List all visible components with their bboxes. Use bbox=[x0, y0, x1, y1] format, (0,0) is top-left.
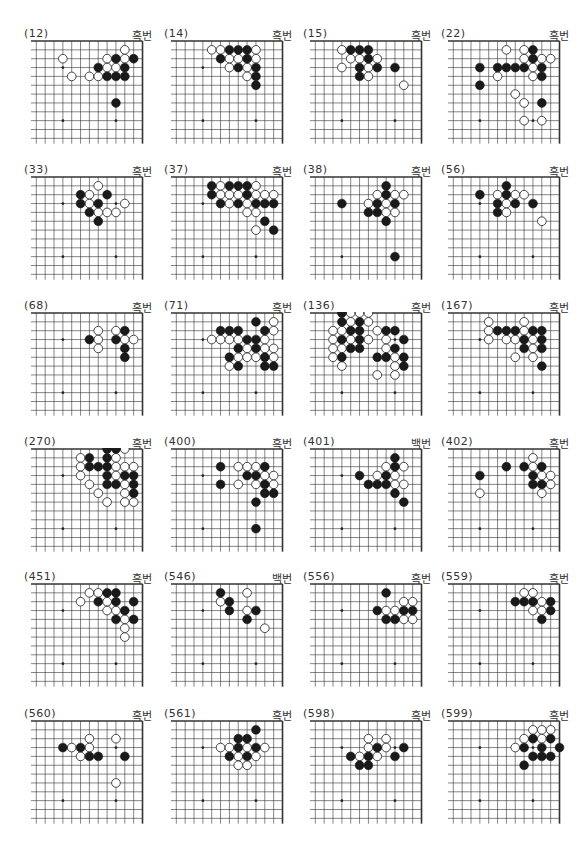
black-stone bbox=[399, 743, 408, 752]
white-stone bbox=[111, 454, 120, 463]
white-stone bbox=[269, 190, 278, 199]
white-stone bbox=[260, 471, 269, 480]
white-stone bbox=[546, 726, 555, 735]
white-stone bbox=[225, 199, 234, 208]
star-point bbox=[61, 609, 64, 612]
white-stone bbox=[269, 318, 278, 327]
black-stone bbox=[519, 462, 528, 471]
white-stone bbox=[102, 606, 111, 615]
white-stone bbox=[519, 589, 528, 598]
white-stone bbox=[242, 761, 251, 770]
white-stone bbox=[390, 371, 399, 380]
white-stone bbox=[381, 335, 390, 344]
go-board bbox=[165, 176, 289, 286]
black-stone bbox=[120, 752, 129, 761]
black-stone bbox=[242, 45, 251, 54]
white-stone bbox=[234, 54, 243, 63]
white-stone bbox=[251, 462, 260, 471]
star-point bbox=[61, 527, 64, 530]
white-stone bbox=[546, 480, 555, 489]
white-stone bbox=[102, 597, 111, 606]
go-board bbox=[304, 583, 428, 693]
black-stone bbox=[111, 335, 120, 344]
white-stone bbox=[528, 606, 537, 615]
white-stone bbox=[537, 597, 546, 606]
white-stone bbox=[337, 63, 346, 72]
black-stone bbox=[355, 761, 364, 770]
white-stone bbox=[381, 462, 390, 471]
star-point bbox=[340, 746, 343, 749]
white-stone bbox=[120, 498, 129, 507]
white-stone bbox=[242, 72, 251, 81]
go-problem: (560)흑번 bbox=[28, 707, 156, 837]
white-stone bbox=[546, 471, 555, 480]
black-stone bbox=[373, 353, 382, 362]
star-point bbox=[478, 119, 481, 122]
black-stone bbox=[234, 63, 243, 72]
white-stone bbox=[120, 624, 129, 633]
star-point bbox=[531, 527, 534, 530]
star-point bbox=[114, 527, 117, 530]
white-stone bbox=[328, 353, 337, 362]
white-stone bbox=[337, 344, 346, 353]
white-stone bbox=[242, 353, 251, 362]
problem-number: (451) bbox=[24, 570, 56, 583]
black-stone bbox=[537, 615, 546, 624]
star-point bbox=[201, 119, 204, 122]
black-stone bbox=[120, 353, 129, 362]
black-stone bbox=[373, 480, 382, 489]
white-stone bbox=[111, 606, 120, 615]
star-point bbox=[531, 119, 534, 122]
black-stone bbox=[242, 181, 251, 190]
white-stone bbox=[399, 615, 408, 624]
white-stone bbox=[120, 615, 129, 624]
black-stone bbox=[537, 462, 546, 471]
black-stone bbox=[390, 326, 399, 335]
white-stone bbox=[399, 190, 408, 199]
white-stone bbox=[408, 597, 417, 606]
black-stone bbox=[399, 353, 408, 362]
white-stone bbox=[519, 318, 528, 327]
black-stone bbox=[511, 63, 520, 72]
white-stone bbox=[76, 597, 85, 606]
black-stone bbox=[519, 597, 528, 606]
white-stone bbox=[364, 335, 373, 344]
white-stone bbox=[129, 462, 138, 471]
black-stone bbox=[519, 344, 528, 353]
black-stone bbox=[373, 63, 382, 72]
white-stone bbox=[234, 353, 243, 362]
black-stone bbox=[251, 72, 260, 81]
star-point bbox=[201, 338, 204, 341]
black-stone bbox=[102, 453, 111, 462]
black-stone bbox=[225, 45, 234, 54]
black-stone bbox=[355, 335, 364, 344]
white-stone bbox=[225, 335, 234, 344]
white-stone bbox=[493, 190, 502, 199]
black-stone bbox=[242, 615, 251, 624]
white-stone bbox=[528, 344, 537, 353]
white-stone bbox=[390, 471, 399, 480]
star-point bbox=[61, 338, 64, 341]
black-stone bbox=[537, 480, 546, 489]
black-stone bbox=[251, 344, 260, 353]
black-stone bbox=[346, 752, 355, 761]
white-stone bbox=[242, 199, 251, 208]
black-stone bbox=[120, 606, 129, 615]
white-stone bbox=[528, 353, 537, 362]
go-board bbox=[25, 176, 149, 286]
white-stone bbox=[111, 326, 120, 335]
go-board bbox=[304, 720, 428, 830]
go-problem: (400)흑번 bbox=[168, 435, 296, 565]
black-stone bbox=[408, 606, 417, 615]
black-stone bbox=[511, 199, 520, 208]
star-point bbox=[201, 474, 204, 477]
black-stone bbox=[111, 597, 120, 606]
go-board bbox=[25, 448, 149, 558]
black-stone bbox=[120, 72, 129, 81]
star-point bbox=[61, 799, 64, 802]
black-stone bbox=[399, 498, 408, 507]
black-stone bbox=[373, 208, 382, 217]
white-stone bbox=[111, 208, 120, 217]
go-board bbox=[304, 40, 428, 150]
star-point bbox=[393, 662, 396, 665]
